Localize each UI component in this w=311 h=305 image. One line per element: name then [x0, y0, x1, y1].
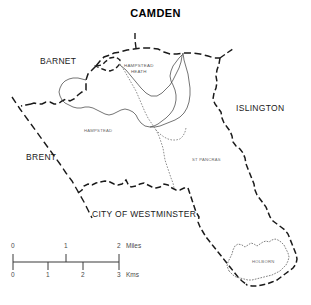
- boundary-brent-stub: [21, 104, 31, 106]
- label-st-pancras: ST PANCRAS: [192, 157, 221, 162]
- scale-label-miles-2: 2: [117, 242, 121, 249]
- label-city-of-westminster: CITY OF WESTMINSTER: [92, 209, 196, 219]
- scale-unit-miles: Miles: [126, 242, 141, 249]
- hampstead-heath-east-lobe: [150, 55, 182, 127]
- scale-bar: 0 1 2 Miles 0 1 2 3 Kms: [0, 240, 170, 285]
- label-hampstead-heath-line1: HAMPSTEAD: [124, 63, 154, 69]
- label-holborn: HOLBORN: [252, 259, 274, 264]
- boundary-north-spur: [135, 32, 136, 48]
- boundary-westminster: [78, 180, 188, 193]
- boundary-camden-north: [96, 48, 220, 66]
- boundary-camden-southeast: [188, 188, 246, 284]
- scale-label-kms-0: 0: [11, 271, 15, 278]
- scale-label-kms-2: 2: [81, 271, 85, 278]
- boundary-camden-west: [31, 66, 96, 104]
- label-hampstead-heath: HAMPSTEAD HEATH: [124, 63, 154, 74]
- scale-bar-graphic: [0, 240, 170, 285]
- internal-boundary-stpancras-north: [156, 128, 186, 140]
- scale-label-kms-3: 3: [117, 271, 121, 278]
- boundary-northwest-loop: [96, 57, 120, 71]
- scale-label-kms-1: 1: [46, 271, 50, 278]
- scale-label-miles-1: 1: [64, 242, 68, 249]
- label-islington: ISLINGTON: [236, 103, 284, 113]
- internal-boundary-hampstead-stpancras: [120, 64, 174, 188]
- label-barnet: BARNET: [40, 56, 76, 66]
- label-brent: BRENT: [26, 152, 56, 162]
- boundary-islington: [213, 58, 297, 286]
- scale-label-miles-0: 0: [11, 242, 15, 249]
- scale-unit-kms: Kms: [126, 271, 139, 278]
- label-hampstead: HAMPSTEAD: [84, 128, 112, 133]
- boundary-northeast-spur: [220, 49, 233, 58]
- camden-map-figure: CAMDEN: [0, 0, 311, 305]
- label-hampstead-heath-line2: HEATH: [124, 69, 154, 75]
